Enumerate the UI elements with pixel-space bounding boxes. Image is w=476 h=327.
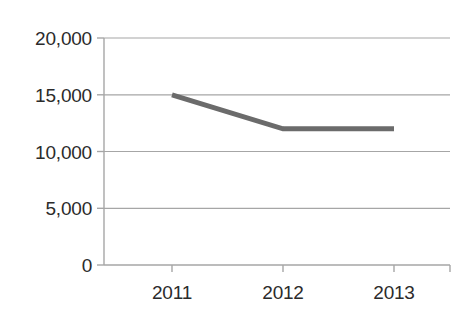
plot-area [0,0,476,327]
x-axis [104,265,450,272]
line-chart: 20,000 15,000 10,000 5,000 0 2011 2012 2… [0,0,476,327]
gridlines [104,38,450,208]
data-series-line [172,95,394,129]
y-axis [97,38,104,265]
